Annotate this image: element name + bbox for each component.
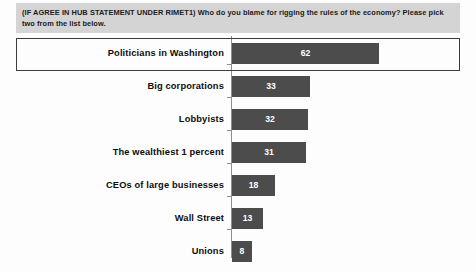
bar-label: Lobbyists	[14, 109, 224, 130]
bar-rect: 32	[232, 109, 308, 130]
axis-tick	[227, 196, 232, 197]
bar-label: Politicians in Washington	[14, 43, 224, 64]
bar-value: 18	[232, 175, 275, 196]
bar-chart: (IF AGREE IN HUB STATEMENT UNDER RIMET1)…	[0, 0, 476, 272]
axis-tick	[227, 64, 232, 65]
axis-tick	[227, 97, 232, 98]
question-banner: (IF AGREE IN HUB STATEMENT UNDER RIMET1)…	[16, 3, 460, 33]
bar-value: 32	[232, 109, 308, 130]
table-row: Politicians in Washington 62	[0, 43, 476, 64]
bar-value: 62	[232, 43, 379, 64]
bar-rect: 13	[232, 208, 263, 229]
bar-rect: 31	[232, 142, 306, 163]
question-text: (IF AGREE IN HUB STATEMENT UNDER RIMET1)…	[22, 8, 452, 29]
bar-rect: 62	[232, 43, 379, 64]
bar-label: Unions	[14, 241, 224, 262]
plot-area: Politicians in Washington 62 Big corpora…	[0, 36, 476, 272]
bar-label: CEOs of large businesses	[14, 175, 224, 196]
table-row: Wall Street 13	[0, 208, 476, 229]
table-row: Unions 8	[0, 241, 476, 262]
bar-label: Wall Street	[14, 208, 224, 229]
table-row: Lobbyists 32	[0, 109, 476, 130]
bar-value: 8	[232, 241, 252, 262]
bar-label: Big corporations	[14, 76, 224, 97]
table-row: CEOs of large businesses 18	[0, 175, 476, 196]
bar-value: 13	[232, 208, 263, 229]
axis-tick	[227, 163, 232, 164]
axis-tick	[227, 130, 232, 131]
bar-value: 33	[232, 76, 310, 97]
axis-tick	[227, 229, 232, 230]
bar-value: 31	[232, 142, 306, 163]
bar-label: The wealthiest 1 percent	[14, 142, 224, 163]
table-row: Big corporations 33	[0, 76, 476, 97]
bar-rect: 33	[232, 76, 310, 97]
table-row: The wealthiest 1 percent 31	[0, 142, 476, 163]
bar-rect: 18	[232, 175, 275, 196]
bar-rect: 8	[232, 241, 252, 262]
